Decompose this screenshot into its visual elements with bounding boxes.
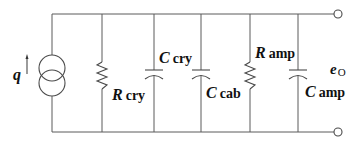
- label-r-amp: Ramp: [254, 44, 295, 61]
- label-c-cry: Ccry: [159, 49, 192, 66]
- output-terminal-top: [334, 10, 342, 18]
- circuit-diagram: q Rcry Ccry Ccab Ramp: [0, 0, 360, 141]
- capacitor-c-cry: [145, 14, 163, 132]
- output-label: eO: [330, 61, 346, 78]
- resistor-r-amp: [245, 14, 255, 132]
- label-r-cry: Rcry: [111, 86, 145, 103]
- output-terminal-bottom: [334, 128, 342, 136]
- capacitor-c-amp: [289, 14, 307, 132]
- current-source: [39, 14, 65, 132]
- capacitor-c-cab: [192, 14, 210, 132]
- current-direction-arrow-icon: [26, 54, 29, 74]
- label-c-amp: Camp: [305, 83, 345, 100]
- source-label: q: [13, 66, 21, 84]
- label-c-cab: Ccab: [206, 84, 241, 101]
- resistor-r-cry: [97, 14, 107, 132]
